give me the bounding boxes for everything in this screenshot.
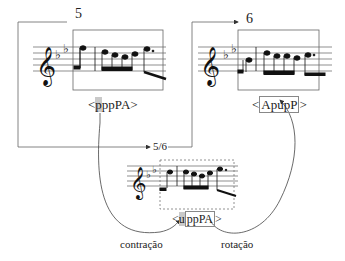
edge-label-rotacao: rotação xyxy=(221,238,253,250)
staff-measure-5-6: 𝄞 ♭ ♭ xyxy=(127,160,238,209)
measure-number-5-6: 5/6 xyxy=(153,140,167,152)
svg-text:𝄞: 𝄞 xyxy=(130,166,147,200)
svg-text:♭: ♭ xyxy=(146,169,151,180)
staff-measure-6: 𝄞 ♭ ♭ xyxy=(198,30,332,90)
boxed-sequence: ApupP xyxy=(259,96,299,113)
svg-text:♭: ♭ xyxy=(152,164,157,175)
svg-text:♭: ♭ xyxy=(55,48,61,62)
label-measure-5-6: <uppPA> xyxy=(172,212,222,227)
svg-text:𝄞: 𝄞 xyxy=(36,45,56,87)
edge-label-contracao: contração xyxy=(120,238,163,250)
highlighted-letter: u xyxy=(179,212,185,226)
measure-number-5: 5 xyxy=(75,6,82,22)
svg-text:♭: ♭ xyxy=(223,48,229,62)
svg-text:𝄞: 𝄞 xyxy=(200,45,220,87)
svg-text:♭: ♭ xyxy=(231,42,237,56)
label-measure-6: <ApupP> xyxy=(252,97,307,113)
rotacao-arrow xyxy=(210,100,295,233)
staff-measure-5: 𝄞 ♭ ♭ xyxy=(33,30,166,90)
boxed-sequence: ppPA xyxy=(185,211,215,227)
label-measure-5: <pppPA> xyxy=(88,97,138,113)
measure-number-6: 6 xyxy=(246,11,253,27)
svg-text:♭: ♭ xyxy=(63,42,69,56)
